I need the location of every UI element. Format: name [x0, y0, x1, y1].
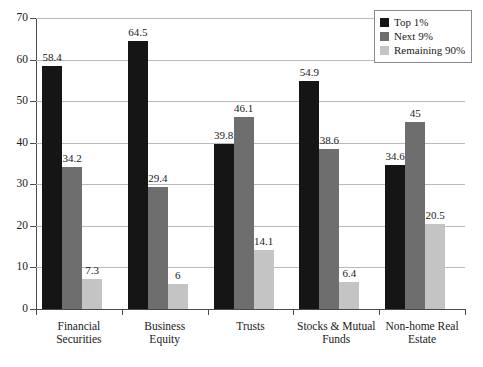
legend-label: Remaining 90% — [394, 45, 465, 56]
bar — [168, 284, 188, 309]
bar — [254, 250, 274, 309]
gridline-0 — [36, 309, 465, 310]
category-label-line: Funds — [287, 333, 385, 346]
bar-value-label: 46.1 — [226, 103, 262, 114]
y-tick-label-70: 70 — [0, 12, 28, 24]
legend-swatch-icon — [380, 18, 389, 27]
legend-item[interactable]: Next 9% — [380, 30, 465, 43]
category-label-3: Stocks & MutualFunds — [287, 320, 385, 346]
x-tick-mark-4 — [379, 309, 380, 315]
y-tick-label-10: 10 — [0, 261, 28, 273]
legend-label: Top 1% — [394, 17, 428, 28]
category-label-line: Financial — [30, 320, 128, 333]
category-label-line: Estate — [373, 333, 471, 346]
x-tick-mark-0 — [36, 309, 37, 315]
category-label-line: Stocks & Mutual — [287, 320, 385, 333]
bar-value-label: 6 — [160, 270, 196, 281]
bar-value-label: 64.5 — [120, 27, 156, 38]
legend-item[interactable]: Remaining 90% — [380, 44, 465, 57]
bar — [385, 165, 405, 309]
bar — [82, 279, 102, 309]
legend-swatch-icon — [380, 46, 389, 55]
category-label-line: Securities — [30, 333, 128, 346]
legend-label: Next 9% — [394, 31, 433, 42]
bar-chart: 010203040506070 58.434.27.364.529.4639.8… — [0, 0, 483, 367]
bar — [62, 167, 82, 309]
x-tick-mark-2 — [208, 309, 209, 315]
x-tick-mark-3 — [293, 309, 294, 315]
bar-value-label: 38.6 — [311, 135, 347, 146]
y-tick-label-20: 20 — [0, 220, 28, 232]
y-tick-label-30: 30 — [0, 178, 28, 190]
bar-value-label: 14.1 — [246, 236, 282, 247]
category-label-line: Equity — [116, 333, 214, 346]
category-label-4: Non-home RealEstate — [373, 320, 471, 346]
bar-value-label: 58.4 — [34, 52, 70, 63]
y-tick-label-0: 0 — [0, 303, 28, 315]
bar-value-label: 54.9 — [291, 67, 327, 78]
bar — [234, 117, 254, 309]
y-tick-label-60: 60 — [0, 54, 28, 66]
bar — [214, 144, 234, 309]
bar — [425, 224, 445, 309]
bar-value-label: 34.2 — [54, 153, 90, 164]
bar-value-label: 20.5 — [417, 210, 453, 221]
bar — [42, 66, 62, 309]
bar-value-label: 6.4 — [331, 268, 367, 279]
bar — [339, 282, 359, 309]
y-tick-label-40: 40 — [0, 137, 28, 149]
bar-value-label: 29.4 — [140, 173, 176, 184]
category-label-0: FinancialSecurities — [30, 320, 128, 346]
y-tick-label-50: 50 — [0, 95, 28, 107]
bar — [148, 187, 168, 309]
x-tick-mark-end — [465, 309, 466, 315]
x-tick-mark-1 — [122, 309, 123, 315]
legend-item[interactable]: Top 1% — [380, 16, 465, 29]
category-label-line: Business — [116, 320, 214, 333]
chart-legend: Top 1%Next 9%Remaining 90% — [374, 10, 472, 63]
category-label-2: Trusts — [202, 320, 300, 333]
category-label-1: BusinessEquity — [116, 320, 214, 346]
bar — [319, 149, 339, 309]
category-label-line: Trusts — [202, 320, 300, 333]
bar-value-label: 7.3 — [74, 265, 110, 276]
category-label-line: Non-home Real — [373, 320, 471, 333]
legend-swatch-icon — [380, 32, 389, 41]
bar — [299, 81, 319, 309]
bar-value-label: 45 — [397, 108, 433, 119]
